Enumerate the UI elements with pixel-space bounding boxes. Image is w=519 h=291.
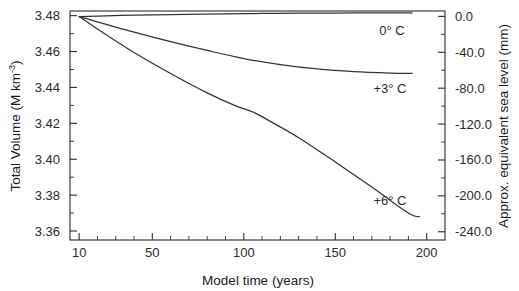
y-tick-label: 3.38 — [35, 188, 60, 203]
series-label-0: 0° C — [379, 23, 404, 38]
y2-tick-label: -160.0 — [455, 152, 492, 167]
y-axis-left-tick-labels: 3.363.383.403.423.443.463.48 — [35, 8, 60, 238]
y2-tick-label: -80.0 — [455, 81, 485, 96]
series-label-2: +6° C — [373, 193, 406, 208]
x-tick-label: 50 — [145, 245, 159, 260]
series-label-1: +3° C — [373, 81, 406, 96]
y-tick-label: 3.44 — [35, 80, 60, 95]
y-tick-label: 3.36 — [35, 224, 60, 239]
x-tick-label: 200 — [416, 245, 438, 260]
y-tick-label: 3.48 — [35, 8, 60, 23]
y2-tick-label: -200.0 — [455, 188, 492, 203]
y-axis-left-title-exponent: -3 — [7, 65, 17, 73]
x-axis-title: Model time (years) — [202, 273, 314, 288]
y-axis-left-ticks — [70, 16, 77, 231]
series-inline-labels: 0° C+3° C+6° C — [373, 23, 406, 208]
line-chart: 1050100150200 3.363.383.403.423.443.463.… — [0, 0, 519, 291]
y-axis-left-title-suffix: ) — [8, 60, 23, 65]
x-axis-tick-labels: 1050100150200 — [72, 245, 438, 260]
x-tick-label: 100 — [233, 245, 255, 260]
y-axis-right-tick-labels: 0.0-40.0-80.0-120.0-160.0-200.0-240.0 — [455, 9, 492, 239]
x-axis-ticks — [79, 233, 427, 240]
chart-figure: 1050100150200 3.363.383.403.423.443.463.… — [0, 0, 519, 291]
x-tick-label: 10 — [72, 245, 86, 260]
y2-tick-label: 0.0 — [455, 9, 473, 24]
y-axis-left-title-main: Total Volume (M km — [8, 73, 23, 192]
y-tick-label: 3.46 — [35, 44, 60, 59]
y-tick-label: 3.40 — [35, 152, 60, 167]
y2-tick-label: -40.0 — [455, 45, 485, 60]
data-series-lines — [79, 13, 419, 217]
y-axis-right-title: Approx. equivalent sea level (mm) — [496, 24, 511, 228]
x-tick-label: 150 — [324, 245, 346, 260]
y2-tick-label: -120.0 — [455, 117, 492, 132]
series-line-1 — [79, 17, 412, 74]
y-tick-label: 3.42 — [35, 116, 60, 131]
y2-tick-label: -240.0 — [455, 224, 492, 239]
series-line-2 — [79, 17, 419, 217]
y-axis-right-ticks — [438, 16, 445, 231]
series-line-0 — [79, 13, 412, 17]
y-axis-left-title: Total Volume (M km-3) — [7, 60, 23, 191]
